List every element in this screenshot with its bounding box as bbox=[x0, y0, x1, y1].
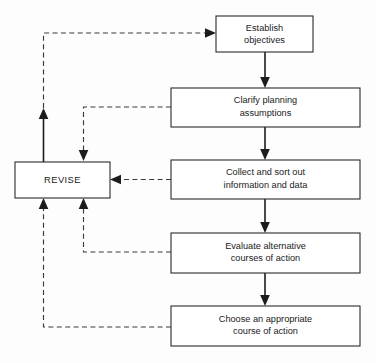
node-establish-objectives-line1: Establish bbox=[246, 23, 283, 33]
node-choose-appropriate-course-line1: Choose an appropriate bbox=[219, 314, 312, 324]
node-choose-appropriate-course-line2: course of action bbox=[233, 326, 298, 336]
node-collect-and-sort-out-information[interactable]: Collect and sort out information and dat… bbox=[171, 160, 360, 199]
node-evaluate-alternative-courses[interactable]: Evaluate alternative courses of action bbox=[171, 233, 360, 273]
connector-choose-to-revise bbox=[39, 198, 171, 327]
node-clarify-planning-assumptions-line1: Clarify planning bbox=[234, 95, 297, 105]
node-clarify-planning-assumptions[interactable]: Clarify planning assumptions bbox=[171, 88, 360, 127]
connector-clarify-to-collect bbox=[260, 127, 270, 160]
node-choose-appropriate-course[interactable]: Choose an appropriate course of action bbox=[171, 306, 360, 346]
connector-clarify-to-revise bbox=[79, 107, 171, 161]
node-evaluate-alternative-courses-line2: courses of action bbox=[231, 253, 300, 263]
connector-evaluate-to-revise bbox=[79, 198, 171, 252]
node-revise[interactable]: REVISE bbox=[15, 162, 110, 198]
connector-establish-to-clarify bbox=[260, 52, 270, 88]
connector-evaluate-to-choose bbox=[260, 273, 270, 306]
node-collect-and-sort-out-information-line2: information and data bbox=[224, 180, 309, 190]
node-collect-and-sort-out-information-line1: Collect and sort out bbox=[226, 167, 306, 177]
node-establish-objectives[interactable]: Establish objectives bbox=[216, 16, 313, 52]
node-revise-label: REVISE bbox=[44, 174, 81, 185]
node-evaluate-alternative-courses-line1: Evaluate alternative bbox=[225, 241, 306, 251]
connector-collect-to-evaluate bbox=[260, 199, 270, 233]
node-establish-objectives-line2: objectives bbox=[244, 35, 285, 45]
flowchart-diagram: Establish objectives Clarify planning as… bbox=[0, 0, 376, 363]
node-clarify-planning-assumptions-line2: assumptions bbox=[240, 108, 292, 118]
connector-collect-to-revise bbox=[110, 175, 171, 185]
